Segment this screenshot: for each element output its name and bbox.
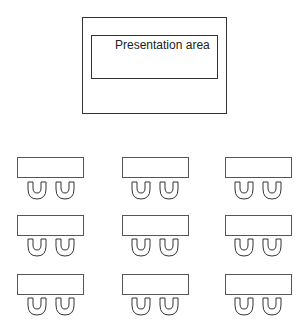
- table-r2-c2: [122, 215, 189, 236]
- table-r3-c3: [225, 274, 292, 295]
- presentation-area-label: Presentation area: [115, 38, 210, 52]
- chair-icon: [27, 297, 47, 316]
- chair-icon: [234, 181, 254, 200]
- chair-icon: [55, 297, 75, 316]
- chair-icon: [27, 238, 47, 257]
- chair-icon: [262, 297, 282, 316]
- table-r3-c2: [122, 274, 189, 295]
- chair-icon: [262, 238, 282, 257]
- table-r3-c1: [17, 274, 84, 295]
- chair-icon: [159, 297, 179, 316]
- table-r1-c1: [17, 157, 84, 178]
- table-r2-c1: [17, 215, 84, 236]
- table-r1-c3: [225, 157, 292, 178]
- chair-icon: [55, 238, 75, 257]
- chair-icon: [131, 181, 151, 200]
- chair-icon: [131, 238, 151, 257]
- chair-icon: [234, 238, 254, 257]
- chair-icon: [55, 181, 75, 200]
- chair-icon: [262, 181, 282, 200]
- chair-icon: [234, 297, 254, 316]
- table-r1-c2: [122, 157, 189, 178]
- chair-icon: [27, 181, 47, 200]
- chair-icon: [159, 238, 179, 257]
- chair-icon: [159, 181, 179, 200]
- table-r2-c3: [225, 215, 292, 236]
- chair-icon: [131, 297, 151, 316]
